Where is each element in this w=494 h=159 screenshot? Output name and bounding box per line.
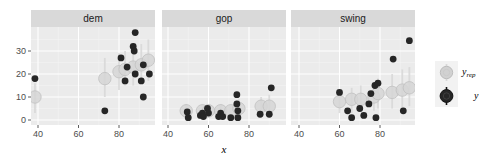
y-point [234, 107, 241, 114]
legend-yrep-icon [440, 66, 452, 78]
y-point [365, 101, 372, 108]
y-point [268, 84, 275, 91]
x-tick-label: 60 [334, 129, 344, 139]
legend: yrepy [435, 61, 479, 107]
legend-label-y: y [473, 90, 479, 101]
x-tick-label: 40 [33, 129, 43, 139]
panel-background [291, 27, 415, 125]
y-tick-label: 20 [16, 69, 26, 79]
y-point [101, 107, 108, 114]
y-point [336, 89, 343, 96]
y-point [233, 101, 240, 108]
facet-strip-label: dem [83, 13, 102, 24]
yrep-point [403, 82, 415, 94]
x-tick-label: 40 [294, 129, 304, 139]
y-point [122, 78, 129, 85]
y-point [400, 107, 407, 114]
x-tick-label: 80 [375, 129, 385, 139]
y-axis: 0102030 [16, 46, 31, 125]
y-point [132, 29, 139, 36]
x-tick-label: 60 [73, 129, 83, 139]
facet-panel-gop: gop406080 [162, 10, 286, 139]
y-point [219, 113, 226, 120]
facet-panel-dem: dem406080 [29, 10, 155, 139]
y-point [146, 71, 153, 78]
yrep-point [263, 100, 275, 112]
y-point [118, 55, 125, 62]
y-point [360, 112, 367, 119]
y-point [227, 114, 234, 121]
ppc-facet-chart: 0102030dem406080gop406080swing406080xyre… [0, 0, 494, 159]
y-point [233, 91, 240, 98]
legend-label-yrep: yrep [461, 66, 476, 79]
y-point [131, 48, 138, 55]
y-point [348, 114, 355, 121]
y-point [390, 56, 397, 63]
y-point [138, 78, 145, 85]
facet-strip-label: swing [340, 13, 366, 24]
y-point [356, 105, 363, 112]
y-point [124, 64, 131, 71]
y-point [184, 109, 191, 116]
facet-panel-swing: swing406080 [291, 10, 416, 139]
y-point [132, 71, 139, 78]
y-tick-label: 30 [16, 46, 26, 56]
yrep-point [333, 95, 345, 107]
y-point [140, 94, 147, 101]
yrep-point [355, 93, 367, 105]
x-axis-title: x [221, 143, 227, 155]
x-tick-label: 60 [203, 129, 213, 139]
y-point [185, 114, 192, 121]
y-point [373, 114, 380, 121]
y-point [234, 114, 241, 121]
x-tick-label: 80 [244, 129, 254, 139]
x-tick-label: 40 [163, 129, 173, 139]
legend-y-icon [440, 90, 453, 103]
yrep-point [99, 72, 111, 84]
y-point [367, 90, 374, 97]
y-point [205, 110, 212, 117]
y-point [32, 75, 39, 82]
y-point [406, 37, 413, 44]
y-point [375, 80, 382, 87]
y-tick-label: 10 [16, 92, 26, 102]
y-tick-label: 0 [21, 115, 26, 125]
y-point [266, 111, 273, 118]
y-point [140, 61, 147, 68]
x-tick-label: 80 [114, 129, 124, 139]
y-point [257, 111, 264, 118]
facet-strip-label: gop [216, 13, 233, 24]
y-point [344, 107, 351, 114]
